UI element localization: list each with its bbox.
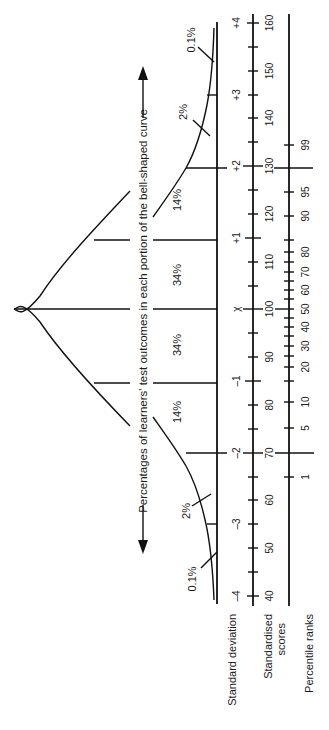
label-left-34pct: 34% — [171, 334, 183, 356]
label-right-tail: 0.1% — [185, 27, 197, 52]
pct-label-60: 60 — [300, 284, 311, 296]
sd-label-plus4: +4 — [231, 17, 242, 29]
score-label-90: 90 — [264, 351, 275, 363]
score-label-70: 70 — [264, 447, 275, 459]
score-label-60: 60 — [264, 494, 275, 506]
bell-curve-diagram: 0.1% 2% 14% 34% 34% 14% 2% 0.1% Percenta… — [0, 0, 329, 730]
score-label-100: 100 — [264, 300, 275, 317]
axis-title-standard-deviation: Standard deviation — [226, 614, 238, 706]
pct-label-95: 95 — [300, 186, 311, 198]
label-right-34pct: 34% — [171, 264, 183, 286]
label-left-2pct: 2% — [180, 503, 192, 519]
score-label-50: 50 — [264, 542, 275, 554]
axis-title-standardised-line1: Standardised — [262, 614, 274, 679]
score-label-150: 150 — [264, 62, 275, 79]
pct-label-99: 99 — [300, 139, 311, 151]
pct-label-50: 50 — [300, 303, 311, 315]
sd-label-minus2: –2 — [231, 447, 242, 459]
pct-label-80: 80 — [300, 246, 311, 258]
pct-label-70: 70 — [300, 266, 311, 278]
score-label-80: 80 — [264, 399, 275, 411]
score-label-110: 110 — [264, 254, 275, 270]
score-label-130: 130 — [264, 157, 275, 174]
score-label-40: 40 — [264, 590, 275, 602]
sd-label-minus1: –1 — [231, 375, 242, 387]
percentile-axis-group: 99 95 90 80 70 60 50 40 30 20 10 5 1 — [274, 14, 314, 606]
score-label-160: 160 — [264, 14, 275, 31]
axis-titles: Standard deviation Standardised scores P… — [226, 614, 315, 706]
sd-label-mean: χ — [231, 306, 242, 312]
pct-label-10: 10 — [300, 396, 311, 408]
label-left-14pct: 14% — [171, 401, 183, 423]
score-label-120: 120 — [264, 205, 275, 222]
score-label-140: 140 — [264, 109, 275, 126]
pct-label-20: 20 — [300, 361, 311, 373]
pct-label-5: 5 — [300, 425, 311, 431]
pct-label-30: 30 — [300, 340, 311, 352]
bell-curve-group: 0.1% 2% 14% 34% 34% 14% 2% 0.1% — [14, 22, 227, 604]
pointer-right-tail — [198, 47, 214, 62]
label-left-tail: 0.1% — [186, 566, 198, 591]
sd-label-plus2: +2 — [231, 160, 242, 172]
pct-label-40: 40 — [300, 321, 311, 333]
score-axis-group: +4 +3 +2 +1 χ –1 –2 –3 –4 160 150 140 13… — [231, 14, 275, 606]
axis-title-standardised-line2: scores — [275, 623, 287, 656]
pct-label-1: 1 — [300, 474, 311, 480]
label-right-2pct: 2% — [177, 104, 189, 120]
sd-label-plus1: +1 — [231, 232, 242, 244]
bell-curve-upper-tail — [153, 28, 214, 217]
arrow-up-icon — [138, 66, 148, 80]
caption: Percentages of learners' test outcomes i… — [137, 109, 149, 513]
sd-label-minus4: –4 — [231, 590, 242, 602]
pointer-right-2pct — [193, 120, 210, 136]
caption-group: Percentages of learners' test outcomes i… — [137, 66, 149, 554]
pointer-left-tail — [201, 552, 217, 568]
axis-title-percentile-ranks: Percentile ranks — [303, 614, 315, 693]
label-right-14pct: 14% — [171, 189, 183, 211]
arrow-down-icon — [138, 540, 148, 554]
pct-label-90: 90 — [300, 210, 311, 222]
sd-label-plus3: +3 — [231, 89, 242, 101]
sd-label-minus3: –3 — [231, 518, 242, 530]
